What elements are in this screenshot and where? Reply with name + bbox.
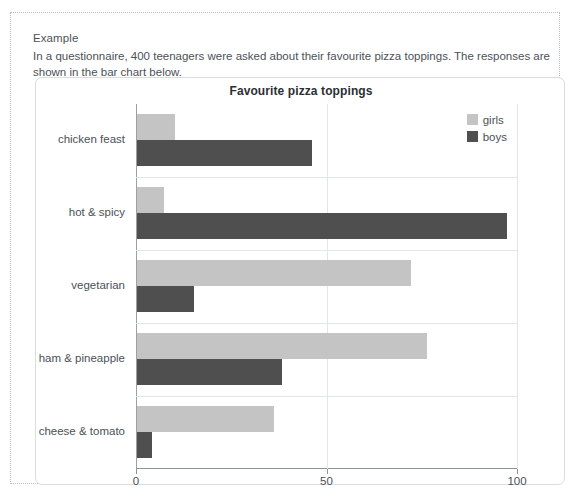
page-root: Example In a questionnaire, 400 teenager… xyxy=(0,0,570,496)
category-row: cheese & tomato xyxy=(136,396,517,469)
bar-boys-cheese-tomato xyxy=(137,432,152,458)
bar-boys-hot-spicy xyxy=(137,213,507,239)
example-panel: Example In a questionnaire, 400 teenager… xyxy=(10,12,560,484)
legend-label: girls xyxy=(483,114,504,126)
x-tick-label: 100 xyxy=(507,475,526,487)
chart-title: Favourite pizza toppings xyxy=(36,84,566,98)
legend-swatch-boys-icon xyxy=(467,131,478,142)
category-label: cheese & tomato xyxy=(0,425,125,437)
x-tick-mark xyxy=(327,469,328,474)
bar-girls-cheese-tomato xyxy=(137,406,274,432)
legend-label: boys xyxy=(483,131,507,143)
x-tick-label: 50 xyxy=(320,475,333,487)
x-tick-label: 0 xyxy=(133,475,139,487)
category-label: vegetarian xyxy=(0,279,125,291)
category-label: ham & pineapple xyxy=(0,352,125,364)
legend-item-girls: girls xyxy=(467,112,507,127)
bar-boys-chicken-feast xyxy=(137,140,312,166)
x-tick-mark xyxy=(517,469,518,474)
bar-boys-vegetarian xyxy=(137,286,194,312)
category-row: chicken feast xyxy=(136,104,517,177)
gridline-x-100 xyxy=(517,104,518,469)
legend-item-boys: boys xyxy=(467,129,507,144)
x-tick-mark xyxy=(136,469,137,474)
intro-paragraph: In a questionnaire, 400 teenagers were a… xyxy=(33,48,561,80)
plot-area: chicken feasthot & spicyvegetarianham & … xyxy=(136,104,517,469)
category-row: vegetarian xyxy=(136,250,517,323)
chart-legend: girlsboys xyxy=(467,112,507,146)
bar-boys-ham-pineapple xyxy=(137,359,282,385)
category-label: chicken feast xyxy=(0,133,125,145)
bar-girls-vegetarian xyxy=(137,260,411,286)
legend-swatch-girls-icon xyxy=(467,114,478,125)
category-row: ham & pineapple xyxy=(136,323,517,396)
bar-girls-ham-pineapple xyxy=(137,333,427,359)
chart-card: Favourite pizza toppings chicken feastho… xyxy=(35,77,565,485)
category-label: hot & spicy xyxy=(0,206,125,218)
category-row: hot & spicy xyxy=(136,177,517,250)
bar-girls-chicken-feast xyxy=(137,114,175,140)
page-title: Example xyxy=(33,32,78,44)
bar-girls-hot-spicy xyxy=(137,187,164,213)
